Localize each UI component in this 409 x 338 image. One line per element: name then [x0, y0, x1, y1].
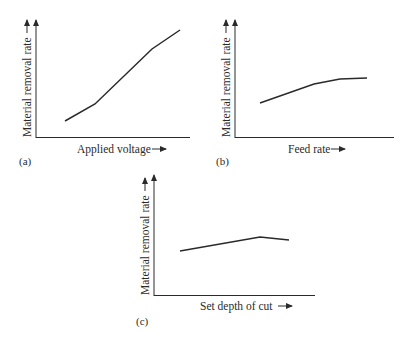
figure-canvas: Material removal rate Applied voltage (a… [0, 0, 409, 338]
mrr-curve [65, 30, 180, 121]
panel-tag: (c) [136, 315, 149, 328]
y-axis-label: Material removal rate [21, 37, 33, 137]
panel-a: Material removal rate Applied voltage (a… [19, 20, 190, 168]
x-axis-label: Applied voltage [77, 143, 151, 156]
y-axis-label: Material removal rate [139, 195, 151, 295]
panel-b: Material removal rate Feed rate (b) [216, 20, 394, 168]
panel-tag: (a) [19, 155, 32, 168]
mrr-curve [180, 237, 289, 251]
panel-tag: (b) [216, 155, 229, 168]
mrr-curve [260, 78, 367, 103]
panel-c: Material removal rate Set depth of cut (… [136, 175, 315, 328]
x-axis-label: Set depth of cut [200, 300, 273, 313]
y-axis-label: Material removal rate [220, 37, 232, 137]
x-axis-label: Feed rate [288, 143, 330, 155]
